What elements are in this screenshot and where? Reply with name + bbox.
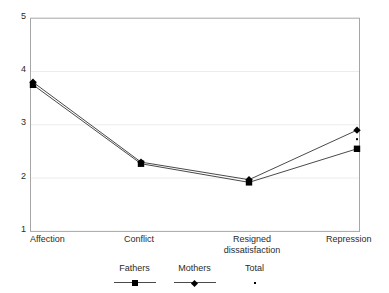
legend-key-mothers <box>172 276 218 290</box>
dot-marker-icon <box>248 180 250 182</box>
square-marker-icon <box>132 280 138 286</box>
dot-marker-icon <box>140 162 142 164</box>
square-marker-icon <box>354 146 360 152</box>
dot-marker-icon <box>254 282 256 284</box>
series-line-mothers <box>33 82 357 180</box>
legend-key-total <box>232 276 278 290</box>
legend-label-mothers: Mothers <box>178 262 211 274</box>
legend-label-fathers: Fathers <box>119 262 150 274</box>
chart-legend: Fathers Mothers Total <box>0 262 389 290</box>
legend-item-total: Total <box>232 262 278 290</box>
dot-marker-icon <box>356 138 358 140</box>
legend-key-fathers <box>112 276 158 290</box>
plot-area <box>0 0 389 293</box>
dot-marker-icon <box>32 82 34 84</box>
legend-label-total: Total <box>245 262 264 274</box>
legend-item-mothers: Mothers <box>172 262 218 290</box>
series-line-fathers <box>33 85 357 183</box>
diamond-marker-icon <box>191 279 198 286</box>
line-chart: 5 4 3 2 1 Affection Conflict Resigned di… <box>0 0 389 293</box>
legend-item-fathers: Fathers <box>112 262 158 290</box>
